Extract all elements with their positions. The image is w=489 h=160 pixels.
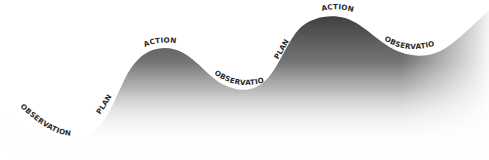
agent-loop-wave-diagram: OBSERVATION PLAN ACTION OBSERVATION PLAN… (0, 0, 489, 160)
